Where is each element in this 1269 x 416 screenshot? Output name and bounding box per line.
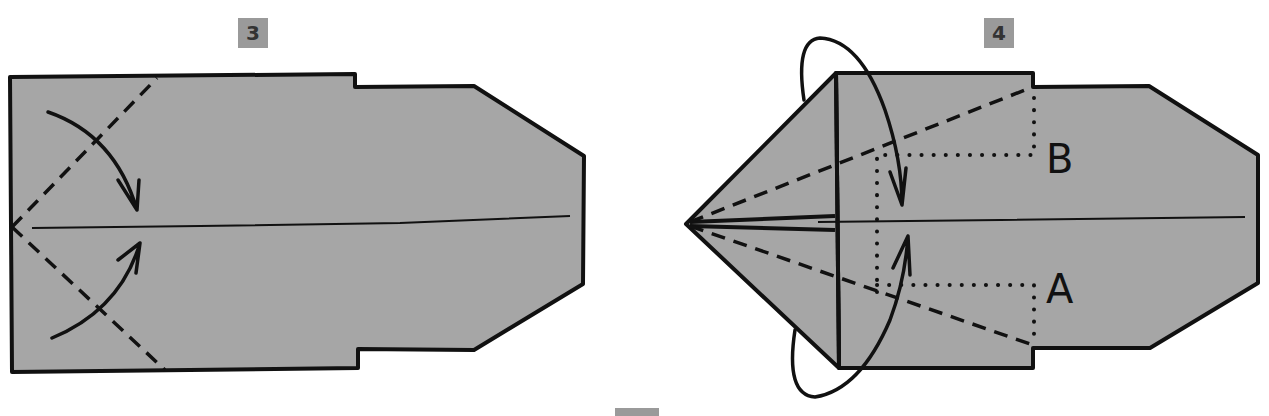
step-3-figure [10, 74, 584, 372]
step-4-figure: B A [686, 38, 1258, 397]
step-4-label-b: B [1046, 136, 1073, 182]
step-4-label-a: A [1046, 266, 1074, 312]
step-3-paper [10, 74, 584, 372]
